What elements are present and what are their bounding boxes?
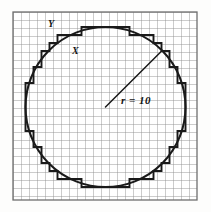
label-y: Y xyxy=(48,19,54,29)
label-x: X xyxy=(72,46,79,56)
grid-field xyxy=(13,12,197,200)
geometry-figure: Y X r = 10 xyxy=(0,0,211,212)
figure-canvas xyxy=(0,0,211,212)
label-radius: r = 10 xyxy=(121,95,151,106)
